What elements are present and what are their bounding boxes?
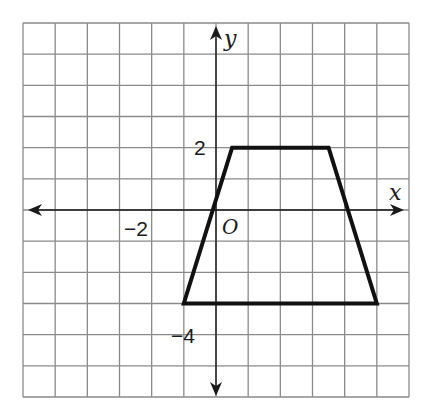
y-tick-label-neg4: −4 xyxy=(171,324,195,347)
x-axis-label: x xyxy=(389,180,402,205)
coordinate-plane: y x O −2 2 −4 xyxy=(0,0,427,408)
y-axis-label: y xyxy=(223,26,237,51)
x-tick-label-neg2: −2 xyxy=(124,217,148,240)
y-tick-label-2: 2 xyxy=(194,136,206,159)
origin-label: O xyxy=(222,215,238,239)
